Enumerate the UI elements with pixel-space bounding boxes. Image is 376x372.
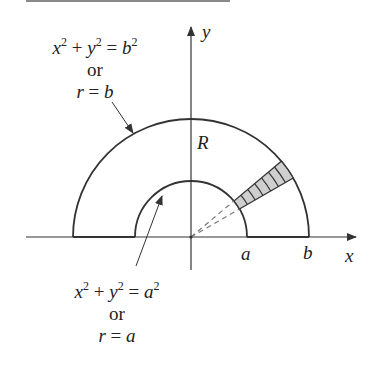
equals-sign: = xyxy=(128,281,139,302)
tick-label-a: a xyxy=(241,244,251,263)
region-label: R xyxy=(197,133,209,152)
or-text: or xyxy=(30,59,160,81)
equals-sign: = xyxy=(89,81,100,102)
plus-sign: + xyxy=(72,37,83,58)
var-a: a xyxy=(144,281,154,302)
plus-sign: + xyxy=(94,281,105,302)
dashed-ray-lower xyxy=(191,209,240,237)
exponent: 2 xyxy=(118,279,124,293)
exponent: 2 xyxy=(96,35,102,49)
y-axis-label: y xyxy=(202,22,210,41)
outer-polar-equation: r = b xyxy=(30,81,160,103)
var-b: b xyxy=(122,37,132,58)
outer-cartesian-equation: x2 + y2 = b2 xyxy=(30,31,160,59)
inner-polar-equation: r = a xyxy=(52,325,182,347)
shaded-polar-rectangle xyxy=(234,161,293,209)
var-r: r xyxy=(76,81,83,102)
var-y: y xyxy=(87,37,95,58)
outer-label-leader xyxy=(112,102,133,133)
var-a: a xyxy=(126,325,136,346)
inner-curve-label: x2 + y2 = a2 or r = a xyxy=(52,275,182,347)
var-b: b xyxy=(104,81,114,102)
origin-point xyxy=(189,235,192,238)
exponent: 2 xyxy=(131,35,137,49)
dashed-ray-upper xyxy=(191,201,234,237)
exponent: 2 xyxy=(61,35,67,49)
var-x: x xyxy=(75,281,83,302)
equals-sign: = xyxy=(106,37,117,58)
equals-sign: = xyxy=(111,325,122,346)
x-axis-label: x xyxy=(345,246,353,265)
var-x: x xyxy=(53,37,61,58)
inner-cartesian-equation: x2 + y2 = a2 xyxy=(52,275,182,303)
var-r: r xyxy=(98,325,105,346)
var-y: y xyxy=(109,281,117,302)
exponent: 2 xyxy=(153,279,159,293)
or-text: or xyxy=(52,303,182,325)
inner-label-leader xyxy=(136,196,162,266)
tick-label-b: b xyxy=(303,243,313,262)
exponent: 2 xyxy=(83,279,89,293)
outer-curve-label: x2 + y2 = b2 or r = b xyxy=(30,31,160,103)
